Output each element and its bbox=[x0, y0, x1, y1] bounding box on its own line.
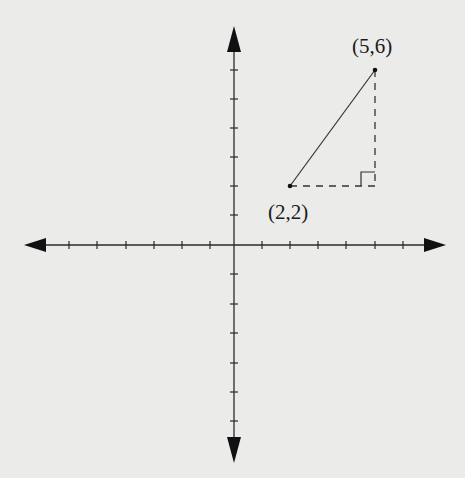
x-axis-left-arrow-icon bbox=[24, 238, 46, 252]
point-a-label: (2,2) bbox=[268, 200, 308, 225]
diagram-svg bbox=[0, 0, 465, 478]
y-axis-up-arrow-icon bbox=[227, 26, 241, 52]
x-axis-right-arrow-icon bbox=[424, 238, 446, 252]
coordinate-plane-diagram: (5,6) (2,2) bbox=[0, 0, 465, 478]
point-b-label: (5,6) bbox=[352, 34, 392, 59]
right-angle-marker bbox=[361, 172, 375, 186]
point-b-dot bbox=[373, 68, 378, 73]
point-a-dot bbox=[288, 184, 293, 189]
y-axis-down-arrow-icon bbox=[227, 437, 241, 463]
segment-ab bbox=[290, 70, 375, 186]
x-axis bbox=[24, 238, 446, 252]
